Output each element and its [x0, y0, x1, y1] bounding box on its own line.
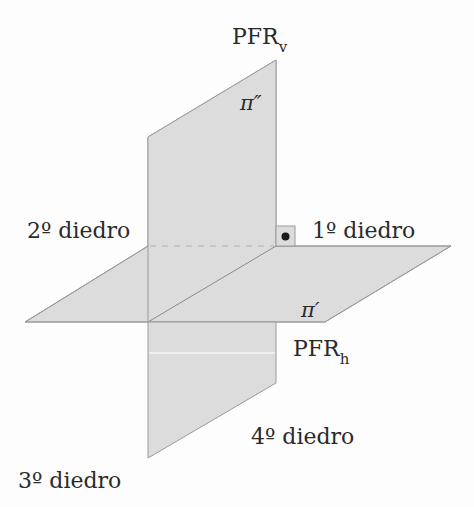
dihedral-2-label: 2º diedro	[27, 218, 130, 243]
pfr-v-label: PFRv	[232, 24, 288, 56]
dihedral-planes-diagram: PFRv π″ 2º diedro 1º diedro π′ PFRh 4º d…	[0, 0, 474, 507]
dihedral-4-label: 4º diedro	[251, 424, 354, 449]
dihedral-3-label: 3º diedro	[18, 468, 121, 493]
pfr-h-label: PFRh	[293, 336, 350, 368]
pi-double-prime-label: π″	[239, 91, 262, 115]
diagram-svg: PFRv π″ 2º diedro 1º diedro π′ PFRh 4º d…	[0, 0, 474, 507]
dihedral-1-label: 1º diedro	[312, 218, 415, 243]
right-angle-dot	[282, 233, 290, 241]
pi-prime-label: π′	[300, 298, 320, 322]
